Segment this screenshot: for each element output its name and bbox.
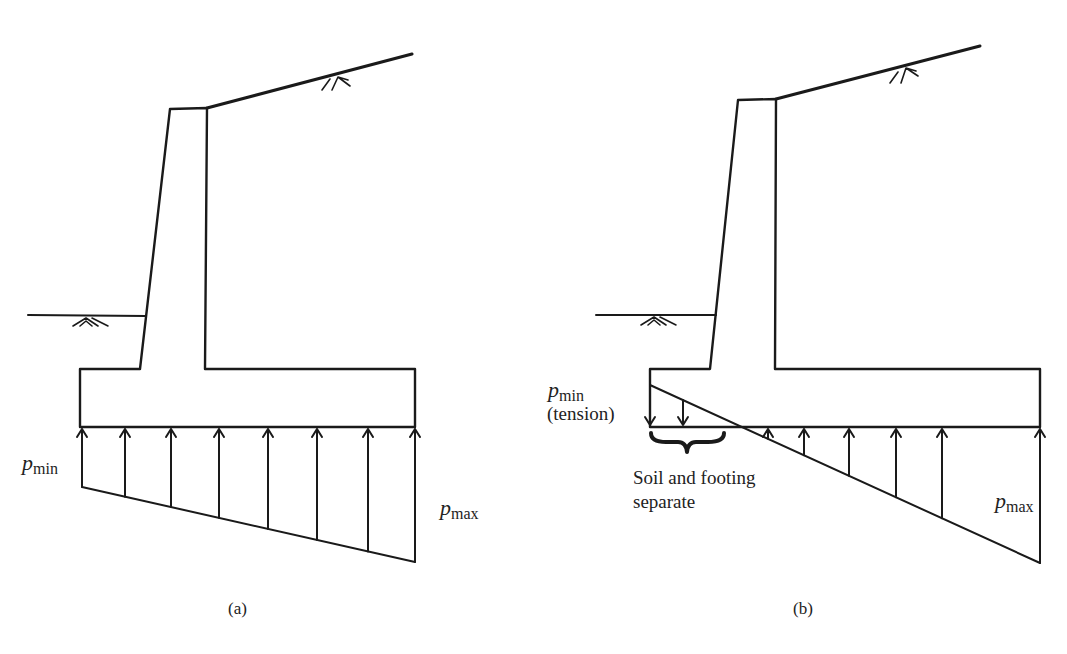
caption-b: (b) [793,599,813,618]
tension-arrow [678,400,688,425]
pmax-label-b: pmax [993,488,1034,515]
ground-symbol-front-a [73,318,108,326]
pressure-arrow [120,429,130,497]
pressure-arrow [410,429,420,562]
pressure-arrow [937,429,947,518]
pressure-arrow [263,429,273,529]
separation-note-line2: separate [633,491,695,512]
caption-a: (a) [228,599,247,618]
pressure-arrow [312,429,322,540]
front-ground-a [28,315,146,316]
pressure-line-a [82,487,415,562]
separation-note-line1: Soil and footing [633,467,756,488]
retaining-wall-a [80,108,415,427]
pmin-label-a: pmin [20,450,58,477]
pressure-arrow [1035,429,1045,563]
tension-arrow [645,385,655,425]
pressure-arrow [77,429,87,487]
pressure-arrow [363,429,373,551]
pressure-arrow [214,429,224,518]
pressure-arrows-a [77,429,420,562]
pmax-label-a: pmax [438,495,479,522]
pmin-label-b: pmin [546,377,584,404]
backfill-slope-b [776,46,980,99]
panel-a: pmin pmax (a) [20,54,479,618]
pressure-arrow [166,429,176,507]
pressure-arrow [844,429,854,476]
tension-note: (tension) [547,403,615,425]
retaining-wall-b [650,99,1040,427]
pressure-arrow [799,429,809,455]
separation-brace [651,433,724,452]
ground-symbol-backfill-b [890,68,918,83]
panel-b: pmin (tension) Soil and footing separate… [546,46,1045,618]
retaining-wall-diagram: pmin pmax (a) pmin (tension) Soil and fo… [0,0,1067,654]
ground-symbol-backfill-a [322,77,350,90]
backfill-slope-a [207,54,412,108]
pressure-arrow [891,429,901,497]
ground-symbol-front-b [641,317,676,325]
